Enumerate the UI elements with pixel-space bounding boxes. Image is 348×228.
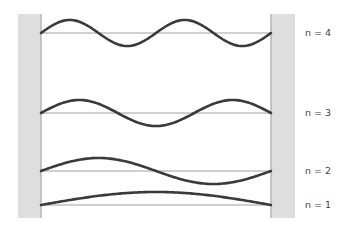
standing-wave-diagram: n = 4 n = 3 n = 2 n = 1: [0, 0, 348, 228]
label-n1: n = 1: [305, 199, 331, 210]
right-wall: [271, 14, 295, 218]
label-n2: n = 2: [305, 165, 331, 176]
label-n3: n = 3: [305, 107, 331, 118]
label-n4: n = 4: [305, 27, 331, 38]
left-wall: [18, 14, 41, 218]
wave-n1: [41, 192, 271, 205]
